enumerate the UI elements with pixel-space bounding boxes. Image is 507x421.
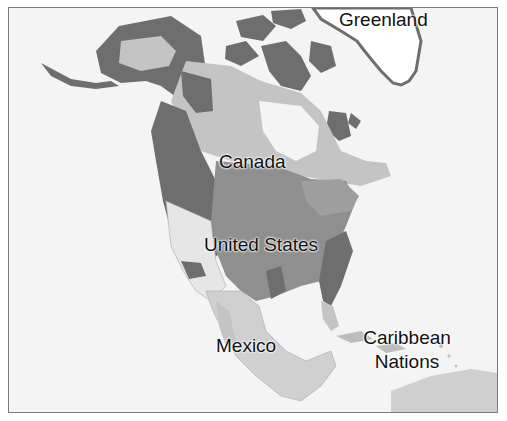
- label-canada: Canada: [219, 152, 286, 171]
- label-united-states: United States: [204, 235, 318, 254]
- label-caribbean-line1: Caribbean: [359, 326, 455, 350]
- label-mexico: Mexico: [216, 336, 276, 355]
- label-greenland: Greenland: [339, 10, 428, 29]
- label-caribbean-nations: Caribbean Nations: [359, 326, 455, 374]
- south-america-region: [391, 369, 497, 412]
- map-frame: Greenland Canada United States Mexico Ca…: [8, 7, 498, 413]
- label-caribbean-line2: Nations: [359, 350, 455, 374]
